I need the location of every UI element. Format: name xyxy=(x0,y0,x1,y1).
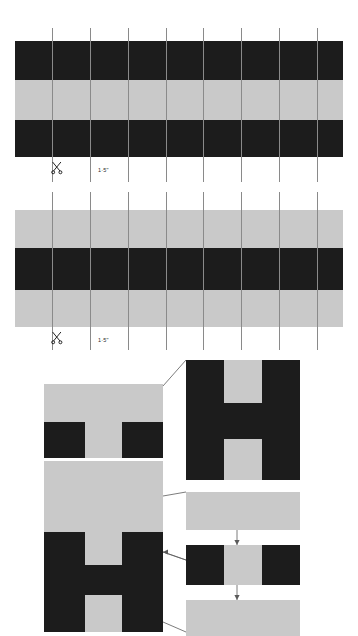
measurement-label: 1·5" xyxy=(98,338,109,344)
cut-guide-line-1 xyxy=(52,28,53,182)
woven-cell-dark-left-1 xyxy=(44,422,85,460)
leader-to-step-panel-2 xyxy=(163,552,186,560)
step-panel-2-dark-left xyxy=(186,545,224,585)
cut-guide-line-7 xyxy=(279,192,280,350)
measurement-label: 1·5" xyxy=(98,168,109,174)
woven-result-panel xyxy=(44,384,163,632)
cut-guide-line-2 xyxy=(90,192,91,350)
strip-band-dark-2 xyxy=(15,120,343,157)
strip-seam xyxy=(44,458,163,461)
cut-guide-line-6 xyxy=(241,192,242,350)
strip-band-light-2 xyxy=(15,290,343,327)
step-panel-1 xyxy=(186,492,300,530)
leader-to-step-panel-2-arrowhead xyxy=(163,549,168,554)
cut-strip-bottom xyxy=(15,210,343,327)
strip-band-dark-1 xyxy=(15,248,343,290)
cut-guide-line-8 xyxy=(317,28,318,182)
leader-step-2-horizontal xyxy=(163,552,186,560)
strip-band-light-0 xyxy=(15,210,343,248)
letterform-detail-panel xyxy=(186,360,300,480)
step-panel-2-dark-right xyxy=(262,545,300,585)
woven-row-light-2 xyxy=(44,460,163,496)
strip-band-light-1 xyxy=(15,80,343,120)
scissors-icon xyxy=(50,161,64,175)
woven-cell-dark-right-1 xyxy=(122,422,163,460)
leader-to-detail-panel xyxy=(163,360,186,386)
cut-guide-line-5 xyxy=(203,192,204,350)
strip-band-dark-0 xyxy=(15,41,343,80)
cut-guide-line-3 xyxy=(128,28,129,182)
cut-guide-line-1 xyxy=(52,192,53,350)
woven-row-light-3 xyxy=(44,496,163,532)
cut-guide-line-8 xyxy=(317,192,318,350)
cut-guide-line-7 xyxy=(279,28,280,182)
cut-guide-line-4 xyxy=(166,192,167,350)
step-panel-3 xyxy=(186,600,300,636)
cut-guide-line-4 xyxy=(166,28,167,182)
woven-crossbar xyxy=(44,565,163,595)
cut-strip-top xyxy=(15,41,343,157)
scissors-icon xyxy=(50,331,64,345)
step-panel-2 xyxy=(186,545,300,585)
woven-row-light-0 xyxy=(44,384,163,422)
cut-guide-line-3 xyxy=(128,192,129,350)
cut-guide-line-6 xyxy=(241,28,242,182)
cut-guide-line-5 xyxy=(203,28,204,182)
letterform-crossbar xyxy=(186,403,300,439)
leader-to-step-panel-1 xyxy=(163,492,186,496)
cut-guide-line-2 xyxy=(90,28,91,182)
leader-to-step-panel-3 xyxy=(163,622,186,632)
diagram-canvas: 1·5"1·5" xyxy=(0,0,358,636)
